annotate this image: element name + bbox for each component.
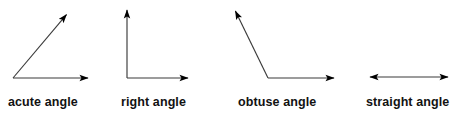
angle-types-figure: acute angle right angle obtuse angle str… [0, 0, 462, 115]
obtuse-angle-upper-left-ray [235, 11, 268, 78]
obtuse-angle-diagram [235, 11, 334, 78]
angle-diagrams-canvas [0, 0, 462, 115]
acute-angle-diagonal-ray [13, 15, 67, 78]
acute-angle-diagram [13, 15, 88, 78]
right-angle-diagram [127, 10, 188, 78]
